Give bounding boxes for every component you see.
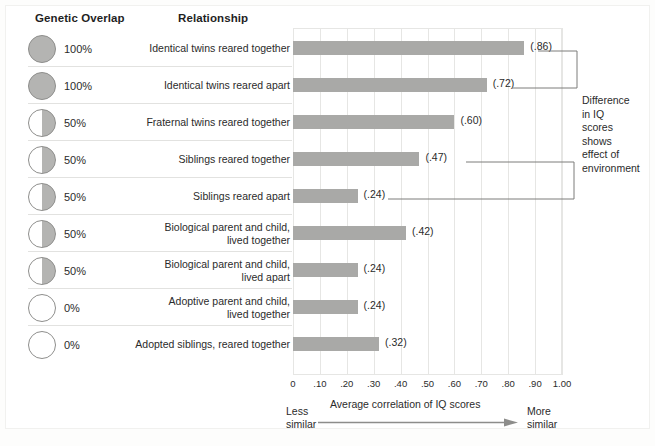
- x-axis-tick: 1.00: [553, 378, 572, 389]
- relationship-label: Biological parent and child,lived apart: [130, 252, 290, 289]
- axis-endpoint-less-similar: Lesssimilar: [286, 405, 316, 431]
- genetic-overlap-value: 100%: [64, 80, 92, 92]
- relationship-label: Identical twins reared together: [130, 30, 290, 67]
- genetic-overlap-value: 50%: [64, 154, 86, 166]
- genetic-overlap-value: 50%: [64, 265, 86, 277]
- relationship-label-line: Biological parent and child,: [165, 258, 291, 271]
- relationship-label-line: Siblings reared together: [179, 153, 291, 166]
- genetic-overlap-value: 50%: [64, 228, 86, 240]
- x-axis-tick: .10: [313, 378, 326, 389]
- relationship-label: Adoptive parent and child,lived together: [130, 289, 290, 326]
- relationship-label-line: lived apart: [242, 271, 290, 284]
- x-axis-tick: .40: [394, 378, 407, 389]
- annotation-line: shows: [582, 135, 652, 149]
- x-axis-tick-labels: 0.10.20.30.40.50.60.70.80.901.00: [293, 378, 562, 392]
- genetic-overlap-pie-icon: [28, 294, 56, 322]
- relationship-label: Fraternal twins reared together: [130, 104, 290, 141]
- x-axis-tick: .30: [367, 378, 380, 389]
- genetic-overlap-value: 100%: [64, 43, 92, 55]
- axis-endpoint-more-similar: Moresimilar: [527, 405, 557, 431]
- x-axis-caption: Average correlation of IQ scores: [330, 398, 480, 410]
- genetic-overlap-value: 0%: [64, 339, 80, 351]
- x-axis-tick: .70: [475, 378, 488, 389]
- genetic-overlap-pie-icon: [28, 109, 56, 137]
- axis-endpoint-line: Less: [286, 405, 316, 418]
- axis-endpoint-line: similar: [527, 418, 557, 431]
- relationship-label-line: Fraternal twins reared together: [146, 116, 290, 129]
- x-axis-tick: .90: [528, 378, 541, 389]
- annotation-line: effect of: [582, 148, 652, 162]
- column-header-genetic-overlap: Genetic Overlap: [35, 12, 125, 24]
- table-row: 0%Adoptive parent and child,lived togeth…: [0, 289, 655, 326]
- annotation-line: in IQ: [582, 108, 652, 122]
- relationship-label-line: Adoptive parent and child,: [169, 295, 290, 308]
- genetic-overlap-pie-icon: [28, 183, 56, 211]
- relationship-label: Adopted siblings, reared together: [130, 326, 290, 363]
- annotation-line: scores: [582, 121, 652, 135]
- relationship-label-line: Identical twins reared apart: [164, 79, 290, 92]
- annotation-line: Difference: [582, 94, 652, 108]
- genetic-overlap-value: 0%: [64, 302, 80, 314]
- table-row: 50%Biological parent and child,lived apa…: [0, 252, 655, 289]
- table-row: 50%Biological parent and child,lived tog…: [0, 215, 655, 252]
- table-row: 0%Adopted siblings, reared together: [0, 326, 655, 363]
- genetic-overlap-pie-icon: [28, 220, 56, 248]
- relationship-label: Biological parent and child,lived togeth…: [130, 215, 290, 252]
- x-axis-tick: .80: [502, 378, 515, 389]
- relationship-label-line: Adopted siblings, reared together: [135, 338, 290, 351]
- annotation-line: environment: [582, 162, 652, 176]
- relationship-label-line: Siblings reared apart: [193, 190, 290, 203]
- table-row: 100%Identical twins reared together: [0, 30, 655, 67]
- genetic-overlap-pie-icon: [28, 35, 56, 63]
- relationship-label: Siblings reared apart: [130, 178, 290, 215]
- genetic-overlap-pie-icon: [28, 72, 56, 100]
- genetic-overlap-pie-icon: [28, 146, 56, 174]
- chart-page: Genetic Overlap Relationship (.86)(.72)(…: [0, 0, 655, 446]
- genetic-overlap-value: 50%: [64, 117, 86, 129]
- genetic-overlap-pie-icon: [28, 331, 56, 359]
- x-axis-tick: .20: [340, 378, 353, 389]
- x-axis-tick: .60: [448, 378, 461, 389]
- table-row: 50%Fraternal twins reared together: [0, 104, 655, 141]
- relationship-label: Siblings reared together: [130, 141, 290, 178]
- x-axis-tick: .50: [421, 378, 434, 389]
- rows-container: 100%Identical twins reared together100%I…: [0, 30, 655, 363]
- genetic-overlap-value: 50%: [64, 191, 86, 203]
- table-row: 50%Siblings reared apart: [0, 178, 655, 215]
- relationship-label-line: lived together: [227, 308, 290, 321]
- relationship-label-line: Biological parent and child,: [165, 221, 291, 234]
- relationship-label: Identical twins reared apart: [130, 67, 290, 104]
- x-axis-tick: 0: [290, 378, 295, 389]
- relationship-label-line: Identical twins reared together: [149, 42, 290, 55]
- column-header-relationship: Relationship: [178, 12, 248, 24]
- axis-direction-arrow: [318, 418, 518, 427]
- genetic-overlap-pie-icon: [28, 257, 56, 285]
- axis-endpoint-line: More: [527, 405, 557, 418]
- axis-endpoint-line: similar: [286, 418, 316, 431]
- table-row: 50%Siblings reared together: [0, 141, 655, 178]
- annotation-label: Differencein IQscoresshowseffect ofenvir…: [582, 94, 652, 175]
- relationship-label-line: lived together: [227, 234, 290, 247]
- table-row: 100%Identical twins reared apart: [0, 67, 655, 104]
